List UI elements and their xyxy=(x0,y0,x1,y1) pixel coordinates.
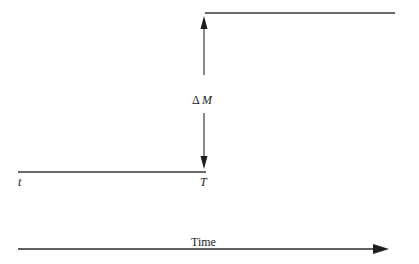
arrow-right-icon xyxy=(373,244,389,254)
arrow-down-icon xyxy=(201,156,208,169)
arrow-up-icon xyxy=(201,16,208,29)
end-time-label: T xyxy=(200,176,207,188)
start-time-label: t xyxy=(18,176,21,188)
delta-variable: M xyxy=(202,93,212,107)
time-axis-label: Time xyxy=(191,236,216,248)
delta-symbol: Δ xyxy=(192,93,199,107)
delta-m-label: Δ M xyxy=(192,94,212,106)
step-change-diagram xyxy=(0,0,419,264)
